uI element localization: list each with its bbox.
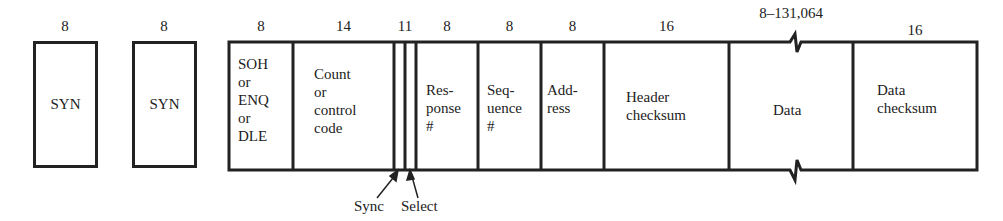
label-response: Res- ponse # [426, 81, 461, 135]
arrows [377, 170, 418, 198]
label-header-checksum: Header checksum [626, 88, 686, 124]
annotation-select: Select [401, 197, 438, 215]
label-start: SOH or ENQ or DLE [238, 55, 269, 145]
label-data: Data [773, 101, 801, 119]
label-count: Count or control code [314, 65, 357, 137]
label-data-checksum: Data checksum [877, 81, 937, 117]
label-address: Add- ress [547, 81, 578, 117]
annotation-sync: Sync [354, 197, 384, 215]
label-sequence: Seq- uence # [487, 81, 522, 135]
